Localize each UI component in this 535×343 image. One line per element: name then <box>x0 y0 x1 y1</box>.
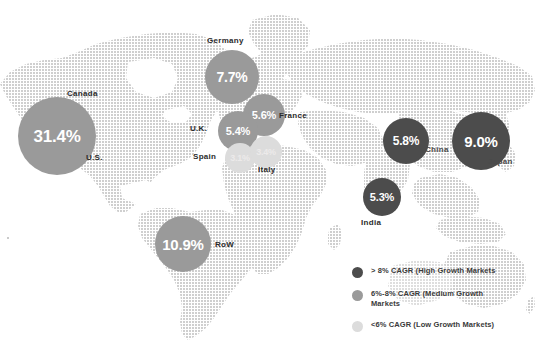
bubble-china[interactable]: 5.8% <box>383 118 429 164</box>
bubble-italy[interactable]: 3.4% <box>250 136 282 168</box>
country-label-japan: Japan <box>488 157 513 166</box>
country-label-germany: Germany <box>207 36 244 45</box>
legend-swatch-high-growth-icon <box>352 267 363 278</box>
country-label-us: U.S. <box>86 153 103 162</box>
country-label-spain: Spain <box>193 152 216 161</box>
country-label-china: China <box>425 145 449 154</box>
legend-item-medium-growth[interactable]: 6%-8% CAGR (Medium Growth Markets <box>352 289 530 309</box>
country-label-row: RoW <box>215 240 234 249</box>
legend-item-low-growth[interactable]: <6% CAGR (Low Growth Markets) <box>352 320 530 332</box>
legend-swatch-low-growth-icon <box>352 321 363 332</box>
legend-label-medium-growth: 6%-8% CAGR (Medium Growth Markets <box>371 289 483 309</box>
country-label-italy: Italy <box>258 165 276 174</box>
country-label-india: India <box>361 218 381 227</box>
bubble-germany[interactable]: 7.7% <box>205 50 259 104</box>
country-label-canada: Canada <box>67 89 98 98</box>
scan-speck <box>7 237 9 239</box>
legend-item-high-growth[interactable]: > 8% CAGR (High Growth Markets <box>352 266 530 278</box>
legend-swatch-medium-growth-icon <box>352 290 363 301</box>
bubble-india[interactable]: 5.3% <box>363 178 401 216</box>
legend: > 8% CAGR (High Growth Markets 6%-8% CAG… <box>352 266 530 343</box>
cagr-bubble-map-infographic: 31.4% U.S. Canada 7.7% Germany 5.6% Fran… <box>0 0 535 343</box>
legend-label-low-growth: <6% CAGR (Low Growth Markets) <box>371 320 494 330</box>
country-label-uk: U.K. <box>190 124 207 133</box>
country-label-france: France <box>279 111 307 120</box>
bubble-us[interactable]: 31.4% <box>18 97 96 175</box>
bubble-row[interactable]: 10.9% <box>155 216 211 272</box>
legend-label-high-growth: > 8% CAGR (High Growth Markets <box>371 266 495 276</box>
